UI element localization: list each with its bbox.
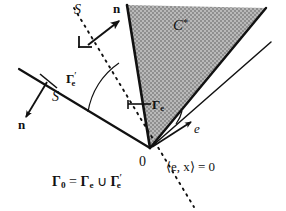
gamma-e-prime-subscript: e [72, 78, 76, 88]
gamma-0-symbol: Γ [52, 174, 61, 189]
figure-canvas: C* Γe Γ′e S S n n e 0 ⟨e, x⟩ = 0 Γ0 = Γe… [0, 0, 286, 211]
gamma-e-prime-subscript-2: e [117, 180, 121, 190]
gamma-e-subscript: e [160, 103, 164, 113]
equals-sign: = [66, 174, 81, 189]
union-sign: ∪ [93, 174, 110, 189]
gamma-e-prime-ray [19, 69, 150, 148]
gamma-e-cone-label: Γe [152, 98, 164, 113]
origin-label: 0 [139, 155, 146, 169]
normal-lower-label: n [18, 118, 25, 131]
surface-upper-label: S [74, 3, 81, 17]
gamma-e-prime-label: Γ′e [66, 71, 75, 87]
hyperplane-equation-label: ⟨e, x⟩ = 0 [166, 160, 215, 173]
geometry-diagram-svg [0, 0, 286, 211]
dual-cone-star: * [183, 17, 188, 28]
boundary-equation-label: Γ0 = Γe ∪ Γ′e [52, 172, 121, 191]
normal-upper-label: n [113, 2, 120, 15]
cone-angle-arc [88, 63, 119, 112]
hyperplane-equation-text: ⟨e, x⟩ = 0 [166, 159, 215, 174]
direction-e-label: e [194, 122, 200, 135]
normal-lower-vector [26, 82, 47, 117]
dual-cone-symbol: C [173, 17, 183, 33]
surface-lower-label: S [52, 90, 59, 104]
dual-cone-label: C* [173, 18, 188, 33]
normal-upper-vector [88, 21, 119, 45]
